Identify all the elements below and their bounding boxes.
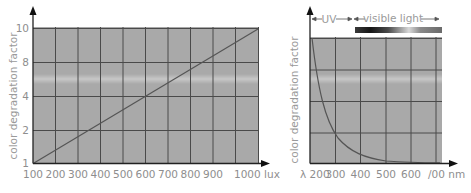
left-x-tick-800: 800	[180, 168, 200, 180]
charts-canvas: 10 8 4 2 1 color degradation factor 100 …	[0, 0, 471, 193]
right-y-axis-arrow-icon	[307, 6, 314, 15]
right-x-tick-700: /00 nm	[428, 168, 465, 180]
left-x-tick-300: 300	[68, 168, 88, 180]
left-y-tick-10: 10	[16, 22, 29, 34]
left-y-axis-label: color degradation factor	[7, 32, 19, 160]
left-y-axis-arrow-icon	[30, 6, 37, 15]
visible-spectrum-bar	[355, 27, 442, 33]
left-x-tick-500: 500	[113, 168, 133, 180]
right-x-tick-400: 400	[350, 168, 370, 180]
uv-label: UV	[322, 13, 338, 25]
right-x-tick-600: 600	[401, 168, 421, 180]
left-x-tick-900: 900	[203, 168, 223, 180]
left-x-tick-1000: 1000 lux	[234, 168, 280, 180]
left-x-axis-arrow-icon	[261, 160, 270, 167]
left-chart: 10 8 4 2 1 color degradation factor 100 …	[7, 6, 280, 180]
left-x-tick-200: 200	[45, 168, 65, 180]
left-y-tick-8: 8	[22, 56, 29, 68]
left-y-tick-2: 2	[22, 124, 29, 136]
left-y-tick-4: 4	[22, 90, 29, 102]
right-x-tick-500: 500	[376, 168, 396, 180]
visible-light-label: visible light	[363, 12, 423, 24]
left-x-tick-400: 400	[90, 168, 110, 180]
right-x-tick-300: 300	[325, 168, 345, 180]
left-x-tick-100: 100	[23, 168, 43, 180]
right-plot-area	[310, 37, 442, 163]
right-x-axis-arrow-icon	[449, 160, 458, 167]
right-chart: UV visible light color degradation facto…	[288, 6, 465, 180]
right-light-band	[310, 74, 442, 84]
left-x-tick-600: 600	[135, 168, 155, 180]
right-y-axis-label: color degradation factor	[288, 36, 300, 164]
left-x-tick-700: 700	[158, 168, 178, 180]
